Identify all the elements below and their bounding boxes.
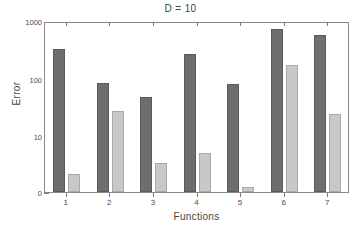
x-axis-tick-mark-top bbox=[327, 22, 328, 26]
x-axis-tick-mark bbox=[284, 193, 285, 197]
bar-series-light-3 bbox=[155, 163, 167, 192]
figure-canvas: D = 10 Error 1000100100 1234567 Function… bbox=[0, 0, 361, 228]
x-axis-label: Functions bbox=[44, 211, 349, 222]
x-axis-tick-mark bbox=[327, 193, 328, 197]
plot-area bbox=[44, 22, 349, 193]
bar-series-light-4 bbox=[199, 153, 211, 192]
bar-series-dark-5 bbox=[227, 84, 239, 192]
y-axis-tick-label: 10 bbox=[8, 133, 42, 142]
bar-series-light-5 bbox=[242, 187, 254, 192]
bar-series-light-2 bbox=[112, 111, 124, 192]
x-axis-tick-mark bbox=[240, 193, 241, 197]
y-axis-tick-mark bbox=[44, 193, 49, 194]
x-axis-tick-label: 3 bbox=[143, 198, 163, 207]
bar-series-dark-2 bbox=[97, 83, 109, 192]
x-axis-tick-label: 6 bbox=[274, 198, 294, 207]
chart-title: D = 10 bbox=[0, 3, 361, 14]
x-axis-tick-mark bbox=[66, 193, 67, 197]
x-axis-tick-mark-top bbox=[66, 22, 67, 26]
bar-series-dark-6 bbox=[271, 29, 283, 192]
y-axis-label: Error bbox=[11, 64, 22, 124]
bar-series-dark-1 bbox=[53, 49, 65, 192]
x-axis-tick-label: 4 bbox=[187, 198, 207, 207]
bar-series-dark-7 bbox=[314, 35, 326, 192]
x-axis-tick-mark-top bbox=[240, 22, 241, 26]
x-axis-tick-mark bbox=[109, 193, 110, 197]
x-axis-tick-mark bbox=[153, 193, 154, 197]
x-axis-tick-mark-top bbox=[284, 22, 285, 26]
y-axis-tick-label: 0 bbox=[8, 189, 42, 198]
bar-series-dark-3 bbox=[140, 97, 152, 192]
bar-series-light-1 bbox=[68, 174, 80, 192]
x-axis-tick-mark bbox=[197, 193, 198, 197]
y-axis-tick-label: 1000 bbox=[8, 18, 42, 27]
bar-series-dark-4 bbox=[184, 54, 196, 192]
bar-series-light-6 bbox=[286, 65, 298, 192]
x-axis-tick-label: 1 bbox=[56, 198, 76, 207]
x-axis-tick-mark-top bbox=[109, 22, 110, 26]
x-axis-tick-label: 5 bbox=[230, 198, 250, 207]
x-axis-tick-label: 2 bbox=[99, 198, 119, 207]
x-axis-tick-mark-top bbox=[153, 22, 154, 26]
x-axis-tick-mark-top bbox=[197, 22, 198, 26]
x-axis-tick-label: 7 bbox=[317, 198, 337, 207]
y-axis-tick-label: 100 bbox=[8, 76, 42, 85]
bar-series-light-7 bbox=[329, 114, 341, 192]
bar-series-container bbox=[45, 23, 348, 192]
